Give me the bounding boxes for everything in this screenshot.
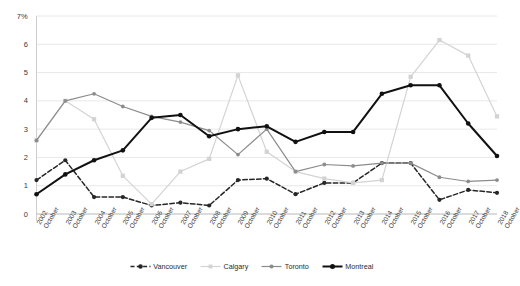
legend-label: Montreal [345,262,373,271]
data-point [63,99,67,103]
data-point [149,202,153,206]
data-point [466,188,470,192]
data-point [264,124,269,129]
data-point [207,157,211,161]
data-point [322,181,326,185]
chart-legend: VancouverCalgaryTorontoMontreal [0,262,503,271]
legend-label: Toronto [285,262,309,271]
data-point [121,174,125,178]
data-point [437,83,442,88]
data-point [35,139,39,143]
data-point [409,161,413,165]
legend-item-vancouver[interactable]: Vancouver [130,262,187,271]
legend-label: Vancouver [153,262,187,271]
data-point [179,120,183,124]
legend-marker-vancouver-icon [130,262,151,271]
data-point [265,150,269,154]
data-point [34,192,39,197]
y-axis-tick-label: 6 [0,40,28,49]
legend-marker-montreal-icon [322,262,343,271]
data-point [380,161,384,165]
data-point [495,178,499,182]
data-point [351,130,356,135]
data-point [178,113,183,118]
data-point [63,158,67,162]
data-point [236,153,240,157]
data-point [351,181,355,185]
data-point [121,105,125,109]
data-point [149,116,154,121]
data-point [380,178,384,182]
data-point [207,129,211,133]
y-axis-tick-label: 4 [0,96,28,105]
data-point [495,154,500,159]
data-point [495,191,499,195]
data-point [293,140,298,145]
data-point [438,175,442,179]
data-point [34,178,38,182]
data-point [121,148,126,153]
data-point [437,38,441,42]
data-point [121,195,125,199]
data-point [322,163,326,167]
data-point [408,83,413,88]
data-point [207,134,212,139]
series-line [37,160,498,205]
data-point [322,130,327,135]
y-axis-tick-label: 1 [0,181,28,190]
data-point [92,92,96,96]
data-point [236,178,240,182]
y-axis-tick-label: 2 [0,153,28,162]
data-point [265,177,269,181]
data-point [466,121,471,126]
data-point [236,127,241,132]
data-point [495,114,499,118]
data-point [466,53,470,57]
data-point [63,172,68,177]
data-point [92,195,96,199]
data-point [178,201,182,205]
legend-item-toronto[interactable]: Toronto [261,262,308,271]
y-axis-tick-label: 3 [0,125,28,134]
data-point [178,169,182,173]
data-point [466,180,470,184]
data-point [293,192,297,196]
data-point [409,75,413,79]
data-point [351,164,355,168]
data-point [236,73,240,77]
data-point [437,198,441,202]
legend-item-montreal[interactable]: Montreal [322,262,373,271]
y-axis-tick-label: 7% [0,12,28,21]
y-axis-tick-label: 0 [0,210,28,219]
data-point [322,176,326,180]
data-point [92,158,97,163]
y-axis-tick-label: 5 [0,68,28,77]
data-point [207,203,211,207]
legend-label: Calgary [224,262,249,271]
series-vancouver [34,158,499,207]
legend-item-calgary[interactable]: Calgary [200,262,248,271]
series-calgary [34,38,499,206]
data-point [380,91,385,96]
legend-marker-toronto-icon [261,262,282,271]
data-point [92,117,96,121]
legend-marker-calgary-icon [200,262,221,271]
series-toronto [35,92,499,183]
series-line [37,94,498,182]
data-point [294,170,298,174]
